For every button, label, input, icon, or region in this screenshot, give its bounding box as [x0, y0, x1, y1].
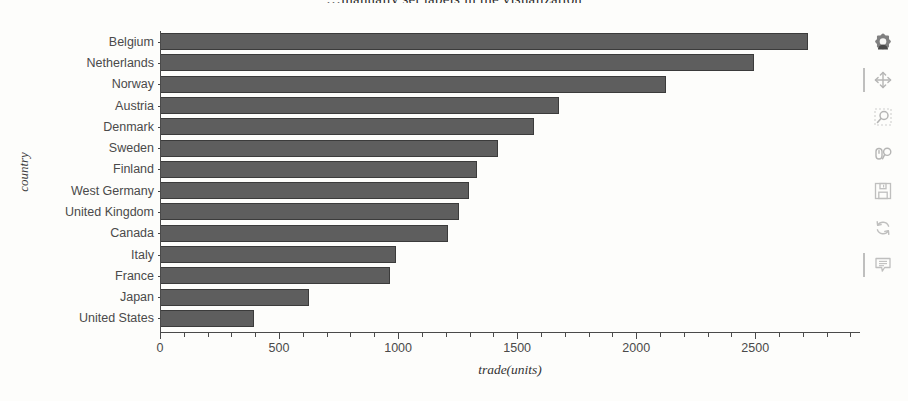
x-axis-minor-tick — [779, 333, 780, 337]
y-axis-tick-label: Japan — [120, 289, 154, 305]
x-axis-minor-tick — [374, 333, 375, 337]
x-axis-minor-tick — [731, 333, 732, 337]
x-axis-minor-tick — [303, 333, 304, 337]
bar[interactable] — [160, 267, 390, 284]
reset-tool-icon[interactable] — [868, 213, 898, 243]
bar[interactable] — [160, 33, 808, 50]
wheel-zoom-tool-icon[interactable] — [868, 139, 898, 169]
y-axis-tick-label: Denmark — [103, 119, 154, 135]
hover-tool-icon[interactable] — [868, 250, 898, 280]
save-tool-icon[interactable] — [868, 176, 898, 206]
bar[interactable] — [160, 289, 309, 306]
y-axis-tick-label: Finland — [113, 161, 154, 177]
x-axis-minor-tick — [541, 333, 542, 337]
x-axis-minor-tick — [850, 333, 851, 337]
y-axis-tick-label: United Kingdom — [65, 204, 154, 220]
bar[interactable] — [160, 203, 459, 220]
bar-chart: country BelgiumNetherlandsNorwayAustriaD… — [0, 14, 860, 374]
x-axis-minor-tick — [350, 333, 351, 337]
y-axis-tick-label: Canada — [110, 225, 154, 241]
y-axis-tick-label: Norway — [112, 76, 154, 92]
x-axis-tick-label: 0 — [157, 341, 164, 355]
x-axis-tick-label: 2000 — [622, 341, 650, 355]
x-axis-minor-tick — [422, 333, 423, 337]
x-axis-minor-tick — [231, 333, 232, 337]
x-axis-minor-tick — [184, 333, 185, 337]
y-axis-tick-label: Sweden — [109, 140, 154, 156]
x-axis-minor-tick — [827, 333, 828, 337]
bar-series — [160, 31, 860, 329]
bar[interactable] — [160, 225, 448, 242]
bar[interactable] — [160, 246, 396, 263]
x-axis-major-tick — [279, 333, 280, 339]
y-axis-line — [160, 31, 161, 333]
y-axis-tick-label: Belgium — [109, 34, 154, 50]
x-axis-major-tick — [160, 333, 161, 339]
pan-tool-icon[interactable] — [868, 65, 898, 95]
page-heading: …manually set labels in the visualizatio… — [0, 0, 908, 3]
y-axis-tick-labels: BelgiumNetherlandsNorwayAustriaDenmarkSw… — [34, 31, 154, 329]
bokeh-logo-icon[interactable] — [868, 28, 898, 58]
y-axis-tick-label: Austria — [115, 98, 154, 114]
x-axis-minor-tick — [684, 333, 685, 337]
x-axis-minor-tick — [660, 333, 661, 337]
x-axis-major-tick — [636, 333, 637, 339]
x-axis-minor-tick — [327, 333, 328, 337]
bar[interactable] — [160, 118, 534, 135]
bokeh-toolbar — [866, 28, 900, 287]
y-axis-tick-label: Netherlands — [87, 55, 154, 71]
x-axis-tick-label: 2500 — [741, 341, 769, 355]
bar[interactable] — [160, 97, 559, 114]
y-axis-tick-label: West Germany — [71, 183, 154, 199]
x-axis-minor-tick — [255, 333, 256, 337]
x-axis-minor-tick — [493, 333, 494, 337]
x-axis-major-tick — [517, 333, 518, 339]
bar[interactable] — [160, 161, 477, 178]
x-axis-major-tick — [755, 333, 756, 339]
x-axis-minor-tick — [589, 333, 590, 337]
x-axis-tick-label: 500 — [269, 341, 290, 355]
x-axis-minor-tick — [208, 333, 209, 337]
bar[interactable] — [160, 54, 754, 71]
y-axis-tick-label: United States — [79, 310, 154, 326]
x-axis-minor-tick — [565, 333, 566, 337]
x-axis-major-tick — [398, 333, 399, 339]
x-axis-minor-tick — [708, 333, 709, 337]
x-axis-tick-label: 1500 — [503, 341, 531, 355]
x-axis-minor-tick — [446, 333, 447, 337]
x-axis-minor-tick — [803, 333, 804, 337]
bar[interactable] — [160, 76, 666, 93]
x-axis-tick-label: 1000 — [384, 341, 412, 355]
x-axis-minor-tick — [612, 333, 613, 337]
bar[interactable] — [160, 182, 469, 199]
box-zoom-tool-icon[interactable] — [868, 102, 898, 132]
bar[interactable] — [160, 310, 254, 327]
x-axis-minor-tick — [470, 333, 471, 337]
y-axis-tick-label: Italy — [131, 247, 154, 263]
x-axis-title: trade(units) — [160, 362, 860, 378]
bar[interactable] — [160, 140, 498, 157]
y-axis-tick-label: France — [115, 268, 154, 284]
y-axis-title: country — [16, 132, 32, 212]
